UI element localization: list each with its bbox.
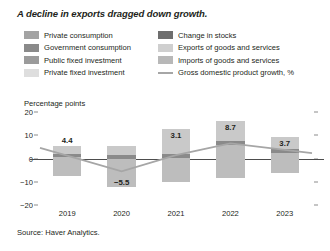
legend-item-label: Imports of goods and services <box>178 56 279 65</box>
legend-color-swatch-icon <box>24 69 39 77</box>
legend-color-swatch-icon <box>24 56 39 64</box>
y-axis-tick-mark <box>34 135 38 136</box>
legend-item-label: Exports of goods and services <box>178 43 280 52</box>
y-axis-tick-mark-right <box>314 112 318 113</box>
y-axis-tick-mark <box>34 205 38 206</box>
legend-item-gross-domestic-product-growth: Gross domestic product growth, % <box>158 67 314 80</box>
legend-item-label: Private consumption <box>44 31 113 40</box>
x-axis-tick-label: 2021 <box>168 209 185 218</box>
x-axis-tick-label: 2023 <box>276 209 293 218</box>
y-axis-tick-mark-right <box>314 205 318 206</box>
legend-line-swatch-icon <box>158 69 173 77</box>
legend-item-label: Change in stocks <box>178 31 236 40</box>
y-axis-title: Percentage points <box>24 99 85 108</box>
x-axis-tick-label: 2022 <box>222 209 239 218</box>
y-axis-tick-label: −10 <box>20 177 33 186</box>
legend-item-government-consumption: Government consumption <box>24 42 156 55</box>
legend-item-change-in-stocks: Change in stocks <box>158 29 314 42</box>
legend-color-swatch-icon <box>24 44 39 52</box>
legend-color-swatch-icon <box>158 44 173 52</box>
y-axis-tick-label: 10 <box>25 131 33 140</box>
legend-item-imports-of-goods-and-services: Imports of goods and services <box>158 54 314 67</box>
y-axis-tick-mark <box>34 181 38 182</box>
legend-item-private-consumption: Private consumption <box>24 29 156 42</box>
legend-item-label: Public fixed investment <box>44 56 122 65</box>
legend-color-swatch-icon <box>24 31 39 39</box>
legend-item-label: Government consumption <box>44 43 131 52</box>
chart-figure: A decline in exports dragged down growth… <box>0 0 330 251</box>
y-axis-tick-mark-right <box>314 181 318 182</box>
y-axis-tick-mark-right <box>314 135 318 136</box>
legend-item-private-fixed-investment: Private fixed investment <box>24 67 156 80</box>
x-axis-labels: 20192020202120222023 <box>40 209 312 220</box>
chart-legend: Private consumptionChange in stocksGover… <box>24 29 314 79</box>
legend-color-swatch-icon <box>158 31 173 39</box>
x-axis-tick-label: 2020 <box>113 209 130 218</box>
figure-title: A decline in exports dragged down growth… <box>17 8 207 19</box>
legend-item-exports-of-goods-and-services: Exports of goods and services <box>158 42 314 55</box>
y-axis-tick-label: 20 <box>25 108 33 117</box>
plot-area: 20100−10−204.4−5.53.18.73.7 <box>40 112 312 205</box>
x-axis-tick-label: 2019 <box>59 209 76 218</box>
y-axis-tick-mark <box>34 112 38 113</box>
legend-item-public-fixed-investment: Public fixed investment <box>24 54 156 67</box>
gdp-growth-line <box>40 112 312 205</box>
y-axis-tick-label: −20 <box>20 201 33 210</box>
legend-color-swatch-icon <box>158 56 173 64</box>
legend-item-label: Private fixed investment <box>44 68 125 77</box>
legend-item-label: Gross domestic product growth, % <box>178 68 294 77</box>
source-note: Source: Haver Analytics. <box>17 228 100 237</box>
